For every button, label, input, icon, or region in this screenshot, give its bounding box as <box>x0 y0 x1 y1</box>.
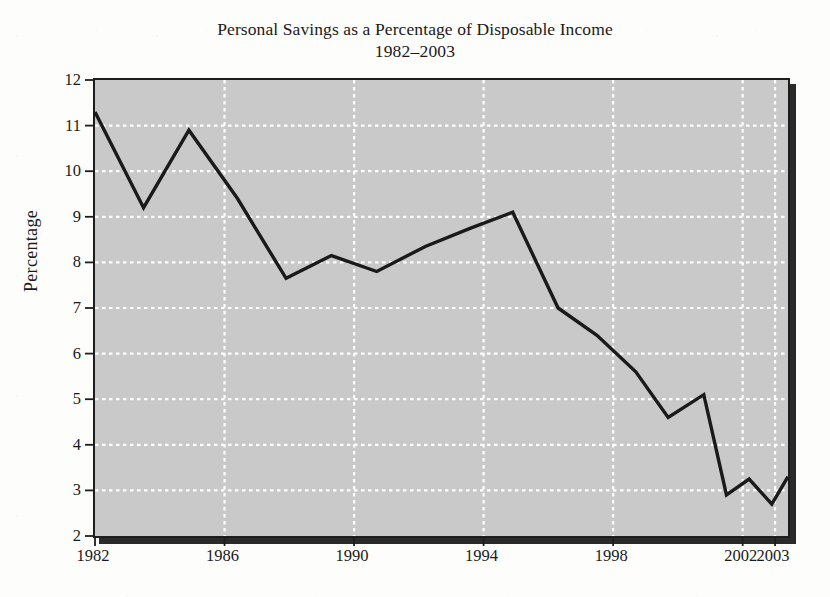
chart-figure: Personal Savings as a Percentage of Disp… <box>0 0 830 597</box>
x-axis-tick-label: 1986 <box>206 546 239 566</box>
x-axis-tick-label: 1990 <box>336 546 369 566</box>
x-axis-tick-label: 1982 <box>77 546 110 566</box>
x-axis-tick-label: 2002 <box>724 546 757 566</box>
x-axis-tick-marks <box>0 0 830 597</box>
x-axis-tick-labels: 1982198619901994199820022003 <box>93 546 790 576</box>
x-axis-tick-label: 2003 <box>757 546 790 566</box>
x-axis-tick-label: 1998 <box>595 546 628 566</box>
x-axis-tick-label: 1994 <box>465 546 498 566</box>
